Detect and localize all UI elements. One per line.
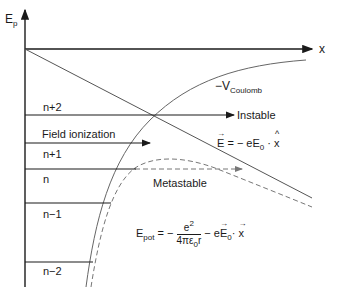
field-equation: E = − eE0 · x (217, 138, 280, 152)
metastable-label: Metastable (153, 178, 207, 189)
level-label-n-minus-1: n−1 (43, 209, 62, 220)
level-label-n-minus-2: n−2 (43, 266, 62, 277)
field-potential-line (25, 49, 312, 198)
coulomb-curve (86, 60, 306, 287)
level-label-n-plus-1: n+1 (43, 149, 62, 160)
x-axis-label: x (319, 43, 325, 55)
coulomb-label: −VCoulomb (215, 80, 262, 95)
level-label-n: n (43, 174, 49, 185)
potential-equation: Epot = − e24πε0r − eE0· x (136, 220, 244, 249)
level-label-n-plus-2: n+2 (43, 102, 62, 113)
y-axis-label: Ep (5, 13, 17, 28)
instable-label: Instable (237, 110, 276, 121)
field-ionization-label: Field ionization (42, 129, 115, 140)
